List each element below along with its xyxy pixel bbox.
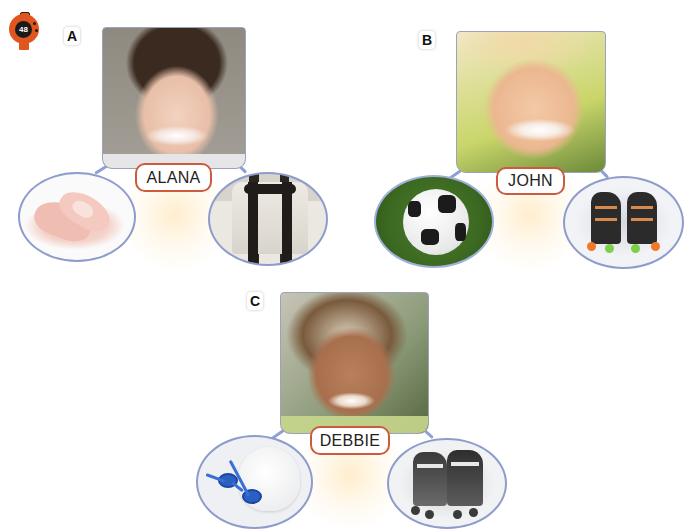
page-number: 48 [15, 21, 32, 38]
ball-patch [438, 195, 456, 213]
photo-john [456, 31, 606, 173]
boy-portrait-image [457, 32, 605, 172]
skate-strap [595, 218, 617, 221]
girl-curly-portrait-image [281, 293, 428, 433]
wheel [651, 242, 660, 251]
section-letter-c: C [247, 292, 263, 310]
activity-inline-skating [387, 438, 507, 529]
black-belt [248, 182, 258, 262]
activity-soccer [374, 175, 494, 268]
wheel [425, 510, 434, 519]
photo-debbie [280, 292, 429, 434]
badge-dot [35, 29, 38, 32]
activity-roller-skating [563, 176, 684, 269]
ball-patch [408, 201, 421, 217]
wheel [469, 508, 478, 517]
inline-skate [447, 450, 483, 506]
skate-strap [451, 462, 479, 466]
badge-foot [19, 41, 29, 50]
wheel [411, 506, 420, 515]
ball-patch [421, 229, 439, 245]
page-number-badge: 48 [9, 14, 41, 52]
girl-portrait-image [103, 28, 245, 168]
section-letter-b: B [419, 31, 435, 49]
wheel [453, 510, 462, 519]
activity-swimming [196, 435, 313, 529]
wheel [587, 242, 596, 251]
name-label-alana: ALANA [135, 163, 212, 192]
belt-knot [244, 184, 296, 194]
inline-skates-icon [413, 452, 447, 506]
soccer-ball-icon [403, 189, 469, 255]
activity-karate [208, 172, 328, 266]
ball-patch [455, 223, 466, 241]
section-letter-a: A [64, 27, 80, 45]
skate-strap [631, 206, 653, 209]
skate-strap [417, 464, 443, 468]
wheel [631, 244, 640, 253]
skate-strap [631, 218, 653, 221]
name-label-john: JOHN [496, 167, 565, 195]
skate-strap [595, 206, 617, 209]
badge-dot [33, 22, 36, 25]
black-belt [282, 182, 292, 262]
wheel [605, 244, 614, 253]
photo-alana [102, 27, 246, 169]
name-label-debbie: DEBBIE [310, 426, 390, 455]
activity-ballet [18, 172, 136, 262]
